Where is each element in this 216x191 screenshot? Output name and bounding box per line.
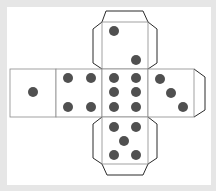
pip [63,73,73,83]
top-tab [102,11,148,22]
bottom-left-tab [93,117,102,164]
face-six [102,69,148,117]
pip [109,102,119,112]
bottom-right-tab [148,117,157,164]
pip [119,136,129,146]
pip [109,26,119,36]
pip [131,122,141,132]
pip [86,73,96,83]
pip [28,87,38,97]
pip [109,150,119,160]
pip [166,88,176,98]
pip [178,102,188,112]
pip [63,102,73,112]
pip [131,55,141,65]
pip [131,150,141,160]
diagram-frame: Dice net [0,0,216,191]
pip [155,74,165,84]
top-left-tab [93,22,102,69]
pip [131,87,141,97]
pip [131,73,141,83]
face-two [102,22,148,69]
pip [109,87,119,97]
right-tab [194,69,205,117]
pip [109,73,119,83]
dice-net [0,0,216,191]
bottom-tab [102,164,148,175]
pip [109,122,119,132]
pip [86,102,96,112]
pip [131,102,141,112]
top-right-tab [148,22,157,69]
